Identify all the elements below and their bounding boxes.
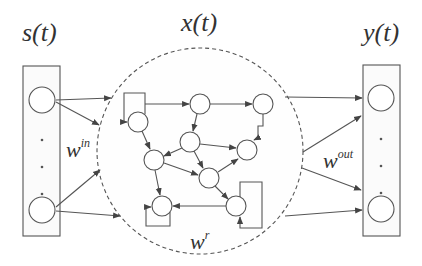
output-node-top	[368, 85, 394, 111]
output-signal-label: y(t)	[363, 20, 399, 46]
weight-base: w	[323, 148, 338, 173]
reservoir-node	[190, 94, 210, 114]
input-weight-label: win	[66, 139, 90, 161]
reservoir-node	[253, 94, 273, 114]
reservoir-boundary	[97, 48, 303, 254]
reservoir-node	[144, 150, 164, 170]
reservoir-node	[226, 196, 246, 216]
weight-sup: in	[81, 136, 90, 150]
reservoir-node	[180, 132, 200, 152]
weight-base: w	[66, 137, 81, 162]
output-node-bottom	[368, 196, 394, 222]
input-node-bottom	[29, 197, 55, 223]
reservoir-weight-label: wr	[190, 231, 209, 253]
weight-sup: r	[205, 228, 210, 242]
input-signal-label: s(t)	[22, 20, 57, 46]
reservoir-diagram	[0, 0, 422, 266]
reservoir-node	[199, 168, 219, 188]
reservoir-node	[152, 196, 172, 216]
weight-base: w	[190, 229, 205, 254]
reservoir-node	[128, 112, 148, 132]
input-node-top	[29, 87, 55, 113]
weight-sup: out	[338, 147, 353, 161]
reservoir-state-label: x(t)	[181, 10, 217, 36]
output-weight-label: wout	[323, 150, 353, 172]
reservoir-node	[237, 140, 257, 160]
